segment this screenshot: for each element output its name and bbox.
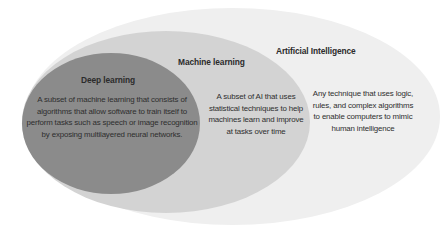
machine-learning-description: A subset of AI that uses statistical tec…: [206, 91, 306, 137]
artificial-intelligence-title: Artificial Intelligence: [276, 46, 356, 56]
deep-learning-title: Deep learning: [81, 75, 135, 85]
artificial-intelligence-description: Any technique that uses logic, rules, an…: [309, 88, 417, 134]
machine-learning-title: Machine learning: [178, 57, 245, 67]
deep-learning-description: A subset of machine learning that consis…: [26, 94, 198, 140]
